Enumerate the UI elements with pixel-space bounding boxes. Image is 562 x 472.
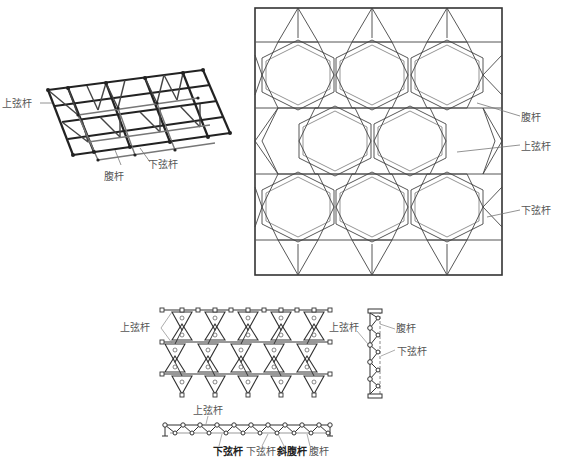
elevation-web-member-label: 腹杆 — [309, 445, 329, 457]
lower-plan-top-chord-label-left: 上弦杆 — [120, 321, 150, 333]
side-web-member-label: 腹杆 — [396, 322, 416, 334]
side-bottom-chord-label: 下弦杆 — [397, 345, 427, 357]
lower-plan-top-chord-label-right: 上弦杆 — [329, 321, 359, 333]
perspective-top-chord-label: 上弦杆 — [2, 97, 32, 109]
space-truss-diagram: 上弦杆 腹杆 下弦杆 — [0, 0, 562, 472]
elevation-top-chord-label: 上弦杆 — [193, 404, 223, 416]
plan-bottom-chord-label: 下弦杆 — [521, 204, 551, 216]
elevation-diagonal-web-label: 斜腹杆 — [276, 445, 307, 457]
perspective-bottom-chord-label: 下弦杆 — [148, 158, 178, 170]
elevation-bottom-chord-label: 下弦杆 — [246, 445, 276, 457]
plan-web-member-label: 腹杆 — [521, 111, 541, 123]
perspective-view — [40, 68, 232, 165]
long-elevation — [162, 416, 333, 446]
plan-top-chord-label: 上弦杆 — [521, 140, 551, 152]
lower-plan-view — [160, 308, 332, 397]
elevation-bottom-chord-bold-label: 下弦杆 — [213, 445, 243, 457]
plan-view — [255, 8, 520, 275]
side-elevation — [357, 309, 395, 398]
perspective-web-member-label: 腹杆 — [104, 170, 124, 182]
